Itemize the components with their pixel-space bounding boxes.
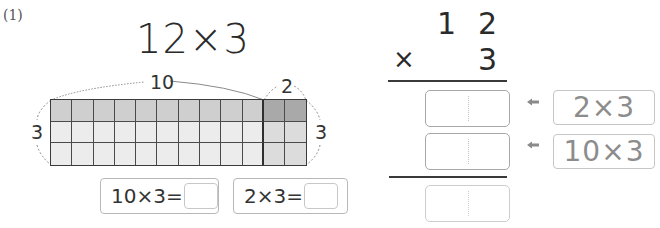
hint-tens-times: 10×3 bbox=[553, 134, 655, 169]
label-tens: 10 bbox=[150, 73, 174, 92]
problem-title: 12×3 bbox=[136, 19, 250, 59]
digit-divider bbox=[468, 96, 469, 121]
partial-product-tens-divider-wrap bbox=[425, 133, 510, 170]
grid-cell bbox=[243, 122, 264, 144]
sum-line bbox=[389, 176, 507, 178]
grid-cell bbox=[94, 122, 115, 144]
digit-divider bbox=[468, 139, 469, 164]
grid-cell bbox=[94, 100, 115, 122]
grid-cell bbox=[72, 143, 93, 165]
partial-product-ones-divider-wrap bbox=[425, 90, 510, 127]
arrow-left-icon bbox=[527, 141, 539, 149]
grid-cell bbox=[200, 122, 221, 144]
grid-cell bbox=[115, 100, 136, 122]
grid-cell bbox=[72, 100, 93, 122]
grid-cell-highlight bbox=[285, 100, 306, 122]
total-product-divider-wrap bbox=[425, 185, 510, 222]
grid-cell bbox=[51, 100, 72, 122]
label-rows-left: 3 bbox=[31, 123, 43, 142]
grid-cell bbox=[157, 122, 178, 144]
grid-cell-highlight bbox=[264, 122, 285, 144]
grid-cell bbox=[221, 143, 242, 165]
equation-ones-answer-input[interactable] bbox=[304, 183, 338, 209]
grid-cell bbox=[243, 100, 264, 122]
grid-cell-highlight bbox=[264, 100, 285, 122]
equation-tens-answer-input[interactable] bbox=[184, 183, 218, 209]
grid-cell bbox=[157, 100, 178, 122]
equation-tens: 10×3= bbox=[100, 178, 219, 214]
grid-cell-highlight bbox=[285, 143, 306, 165]
multiplier-digit: 3 bbox=[478, 45, 497, 75]
equation-ones-expression: 2×3= bbox=[244, 184, 303, 208]
grid-cell bbox=[115, 122, 136, 144]
problem-number: (1) bbox=[3, 7, 23, 23]
multiplicand-ones-digit: 2 bbox=[478, 9, 497, 39]
grid-cell bbox=[221, 122, 242, 144]
equation-tens-expression: 10×3= bbox=[111, 184, 183, 208]
grid-cell bbox=[179, 100, 200, 122]
grid-cell bbox=[94, 143, 115, 165]
grid-cell bbox=[136, 143, 157, 165]
label-ones: 2 bbox=[281, 77, 293, 96]
hint-ones-times: 2×3 bbox=[553, 90, 655, 125]
label-rows-right: 3 bbox=[315, 123, 327, 142]
digit-divider bbox=[468, 191, 469, 216]
product-line bbox=[388, 80, 507, 82]
times-operator: × bbox=[393, 46, 415, 72]
grid-cell bbox=[51, 122, 72, 144]
grid-cell bbox=[115, 143, 136, 165]
grid-cell bbox=[221, 100, 242, 122]
grid-cell-highlight bbox=[285, 122, 306, 144]
grid-cell bbox=[136, 100, 157, 122]
grid-cell bbox=[179, 122, 200, 144]
grid-cell bbox=[157, 143, 178, 165]
grid-cell-highlight bbox=[264, 143, 285, 165]
grid-cell bbox=[200, 100, 221, 122]
grid-cell bbox=[136, 122, 157, 144]
grid-cell bbox=[243, 143, 264, 165]
array-grid bbox=[50, 99, 307, 166]
grid-cell bbox=[51, 143, 72, 165]
grid-cell bbox=[179, 143, 200, 165]
arrow-left-icon bbox=[527, 98, 539, 106]
grid-cell bbox=[72, 122, 93, 144]
grid-cell bbox=[200, 143, 221, 165]
multiplicand-tens-digit: 1 bbox=[437, 9, 456, 39]
equation-ones: 2×3= bbox=[233, 178, 348, 214]
